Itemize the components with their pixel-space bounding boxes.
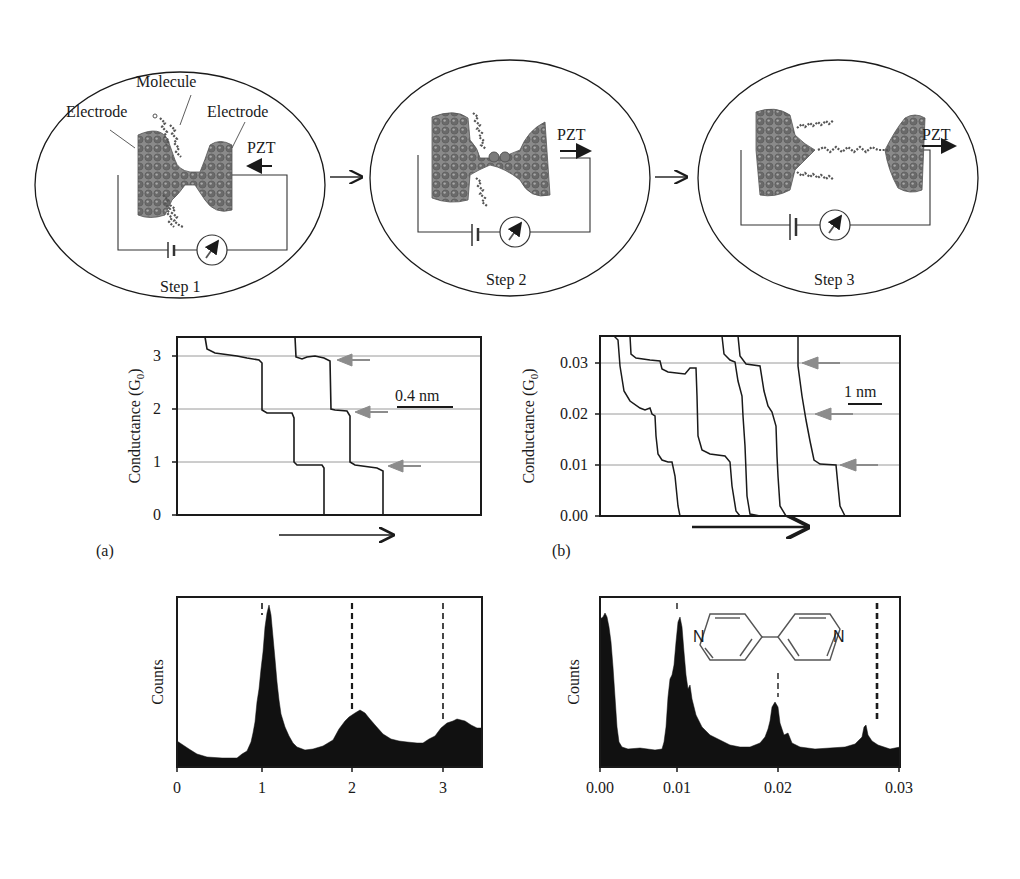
ytick: 1 (153, 453, 161, 470)
xtick: 0.00 (586, 779, 614, 796)
electrode-left-label: Electrode (66, 103, 127, 120)
step-2-label: Step 2 (486, 271, 526, 289)
electrodes (138, 131, 232, 218)
nitrogen-label-left: N (693, 628, 705, 645)
y-axis-label-c: Counts (149, 659, 166, 704)
scalebar-label-b: 1 nm (844, 383, 877, 400)
step-3-circle: PZT Step 3 (698, 60, 978, 296)
step-1-circle: Molecule Electrode Electrode PZT Step 1 (35, 72, 325, 298)
panel-label-b: (b) (552, 542, 571, 560)
ammeter-icon (500, 217, 530, 247)
plot-frame (600, 597, 900, 767)
bipyridine-structure-icon (700, 614, 840, 660)
electrode-right (885, 115, 925, 192)
electrode-left (756, 109, 815, 196)
pzt-label-3: PZT (922, 126, 951, 143)
histogram-c (177, 605, 482, 767)
xtick: 1 (258, 779, 266, 796)
step-3-label: Step 3 (814, 271, 854, 289)
panel-label-a: (a) (96, 542, 114, 560)
ytick: 0.01 (560, 456, 588, 473)
xtick: 0 (173, 779, 181, 796)
panel-d-histogram: N N 0.00 0.01 0.02 0.03 Counts Conductan… (520, 580, 940, 810)
y-axis-label-d: Counts (565, 659, 582, 704)
pzt-label-2: PZT (557, 126, 586, 143)
trace-1 (205, 337, 347, 515)
ytick: 0.00 (560, 507, 588, 524)
molecule-chain (818, 147, 888, 152)
y-axis-label-a: Conductance (G0) (126, 368, 146, 483)
nitrogen-label-right: N (833, 628, 845, 645)
step-1-label: Step 1 (160, 278, 200, 296)
xtick: 0.02 (764, 779, 792, 796)
y-axis-label-b: Conductance (G0) (520, 368, 540, 483)
panel-a-chart: 0.4 nm 0 1 2 3 Conductance (G0) (a) (80, 320, 500, 570)
ytick: 0.02 (560, 405, 588, 422)
xtick: 3 (439, 779, 447, 796)
panel-b-chart: 1 nm 0.00 0.01 0.02 0.03 Conductance (G0… (500, 320, 920, 570)
molecule-label: Molecule (136, 73, 196, 90)
plot-frame (177, 337, 481, 515)
peak-markers (677, 603, 877, 722)
scalebar-label-a: 0.4 nm (395, 387, 440, 404)
schematic-row: Molecule Electrode Electrode PZT Step 1 … (0, 0, 1020, 320)
histogram-d (600, 613, 900, 767)
xtick: 0.01 (663, 779, 691, 796)
peak-markers (262, 603, 443, 722)
ytick: 0 (153, 506, 161, 523)
electrode-right-label: Electrode (207, 103, 268, 120)
ammeter-icon (197, 235, 227, 265)
ytick: 2 (153, 400, 161, 417)
xtick: 0.03 (885, 779, 913, 796)
ytick: 0.03 (560, 354, 588, 371)
ammeter-icon (820, 210, 850, 240)
pzt-label-1: PZT (247, 139, 276, 156)
panel-c-histogram: 0 1 2 3 Counts Conductance (G0) (c) (80, 580, 520, 810)
xtick: 2 (348, 779, 356, 796)
step-2-circle: PZT Step 2 (370, 60, 650, 296)
ytick: 3 (153, 347, 161, 364)
